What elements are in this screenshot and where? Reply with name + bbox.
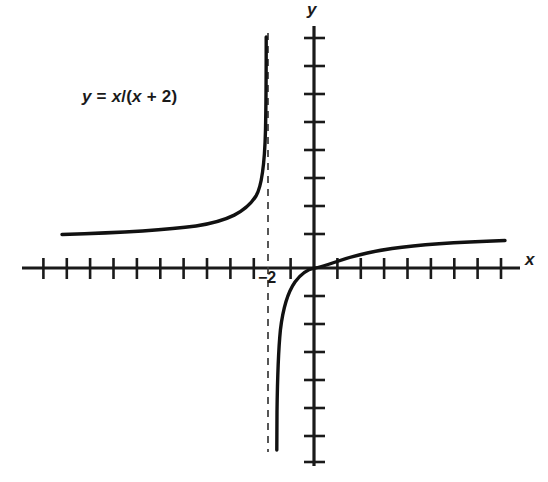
equation-equals: = (92, 87, 112, 106)
y-axis-label: y (307, 0, 316, 20)
x-axis-label: x (525, 250, 534, 270)
graph-figure: y = x/(x + 2) x y −2 (0, 0, 548, 482)
equation-lhs: y (82, 87, 92, 106)
equation-annotation: y = x/(x + 2) (82, 87, 177, 107)
equation-slash-paren: /( (121, 87, 132, 106)
equation-numerator: x (112, 87, 122, 106)
equation-denominator-rest: + 2) (142, 87, 178, 106)
x-tick-label-neg2: −2 (258, 269, 276, 287)
equation-denominator-var: x (132, 87, 142, 106)
plot-canvas (0, 0, 548, 482)
